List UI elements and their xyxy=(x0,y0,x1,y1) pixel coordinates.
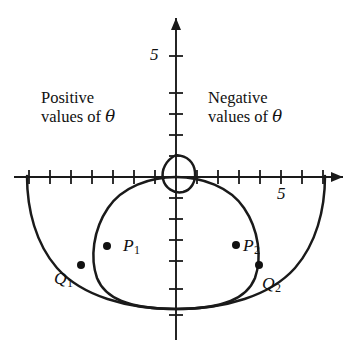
annotation-negative-line2-text: values of xyxy=(208,107,272,126)
theta-symbol: θ xyxy=(272,107,282,126)
annotation-positive-line1: Positive xyxy=(41,88,115,107)
point-label-Q1-letter: Q xyxy=(54,268,67,288)
point-label-P1: P1 xyxy=(123,235,140,258)
point-dot-Q1 xyxy=(77,261,85,269)
annotation-negative-theta: Negative values of θ xyxy=(208,88,282,127)
y-axis-tick-label-5: 5 xyxy=(150,45,159,65)
annotation-positive-theta: Positive values of θ xyxy=(41,88,115,127)
point-label-P2: P2 xyxy=(243,235,260,258)
point-label-P1-subscript: 1 xyxy=(134,243,140,257)
point-dot-Q2 xyxy=(255,261,263,269)
point-dot-P2 xyxy=(232,241,240,249)
y-axis-arrowhead xyxy=(171,18,181,30)
y-axis xyxy=(169,18,183,340)
point-label-P2-letter: P xyxy=(243,235,254,255)
annotation-positive-line2-text: values of xyxy=(41,107,105,126)
x-axis-tick-label-5: 5 xyxy=(277,184,286,204)
point-label-Q2-subscript: 2 xyxy=(275,281,281,295)
point-label-P1-letter: P xyxy=(123,235,134,255)
curve-inner-loop xyxy=(163,155,196,192)
annotation-negative-line1: Negative xyxy=(208,88,282,107)
theta-symbol: θ xyxy=(105,107,115,126)
point-label-Q1: Q1 xyxy=(54,268,73,291)
point-label-Q1-subscript: 1 xyxy=(67,276,73,290)
polar-plot-svg xyxy=(0,0,357,353)
point-label-Q2: Q2 xyxy=(262,273,281,296)
annotation-negative-line2: values of θ xyxy=(208,107,282,126)
point-label-Q2-letter: Q xyxy=(262,273,275,293)
point-label-P2-subscript: 2 xyxy=(254,243,260,257)
point-dot-P1 xyxy=(103,242,111,250)
annotation-positive-line2: values of θ xyxy=(41,107,115,126)
x-axis-arrowhead xyxy=(331,172,343,182)
polar-graph-figure: Positive values of θ Negative values of … xyxy=(0,0,357,353)
